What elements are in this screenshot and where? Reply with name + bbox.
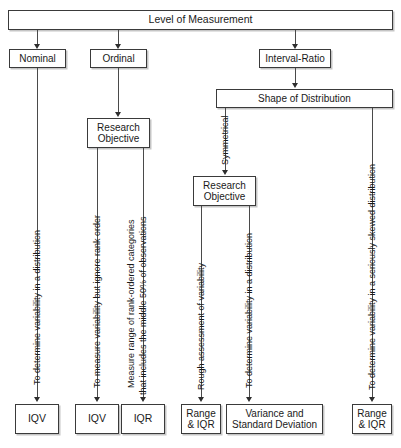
node-label: Shape of Distribution <box>258 93 351 104</box>
connector-ordinal-to-research-objective <box>118 68 119 113</box>
edge-label-ordinal-to-iqr-line1: Measure range of rank-ordered categories <box>127 219 137 388</box>
arrowhead-ordinal-to-research-objective <box>115 112 121 117</box>
outcome-box-iqv-ordinal[interactable]: IQV <box>75 404 119 434</box>
outcome-label: IQV <box>28 413 46 425</box>
outcome-label: Range & IQR <box>186 408 215 430</box>
outcome-label: Range & IQR <box>357 408 386 430</box>
connector-interval-ratio-to-shape <box>295 68 296 84</box>
outcome-box-range-iqr-skewed[interactable]: Range & IQR <box>352 404 392 434</box>
node-label: Research Objective <box>97 122 140 144</box>
node-shape-of-distribution[interactable]: Shape of Distribution <box>216 89 393 108</box>
branch-label-symmetrical: Symmetrical <box>221 115 231 165</box>
node-label: Research Objective <box>203 180 246 202</box>
arrowhead-ordinal-ro-to-iqv <box>94 397 100 402</box>
arrowhead-interval-ro-to-variance <box>246 397 252 402</box>
arrowhead-nominal-to-iqv <box>34 397 40 402</box>
outcome-box-variance-standard-deviation[interactable]: Variance and Standard Deviation <box>226 404 323 434</box>
node-research-objective-interval[interactable]: Research Objective <box>193 176 256 206</box>
outcome-label: Variance and Standard Deviation <box>232 408 317 430</box>
arrowhead-shape-symmetrical <box>222 170 228 175</box>
outcome-box-range-iqr-rough[interactable]: Range & IQR <box>181 404 221 434</box>
edge-label-ordinal-to-iqr-line2: that includes the middle 50% of observat… <box>139 216 149 395</box>
node-label: Nominal <box>19 53 56 64</box>
edge-label-rough-assessment: Rough assessment of variability <box>197 263 207 390</box>
node-nominal[interactable]: Nominal <box>9 49 66 68</box>
node-label: Level of Measurement <box>149 14 253 26</box>
node-label: Interval-Ratio <box>265 53 324 64</box>
flowchart-canvas: Level of Measurement Nominal Ordinal Int… <box>0 0 401 448</box>
edge-label-skewed-to-range-iqr: To determine variability in a seriously … <box>368 164 378 390</box>
node-research-objective-ordinal[interactable]: Research Objective <box>87 118 150 148</box>
outcome-box-iqr[interactable]: IQR <box>121 404 165 434</box>
node-label: Ordinal <box>102 53 134 64</box>
node-interval-ratio[interactable]: Interval-Ratio <box>259 49 331 68</box>
outcome-label: IQR <box>134 413 153 425</box>
arrowhead-interval-ro-to-range-iqr <box>198 397 204 402</box>
edge-label-ordinal-to-iqv: To measure variability but ignore rank o… <box>93 215 103 388</box>
connector-root-to-ordinal <box>118 30 119 45</box>
arrowhead-ordinal-ro-to-iqr <box>140 397 146 402</box>
arrowhead-interval-ratio-to-shape <box>292 83 298 88</box>
connector-root-to-nominal <box>37 30 38 45</box>
edge-label-interval-to-variance: To determine variability in a distributi… <box>245 233 255 388</box>
connector-root-to-interval-ratio <box>295 30 296 45</box>
outcome-label: IQV <box>88 413 106 425</box>
edge-label-nominal-to-iqv: To determine variability in a distributi… <box>33 230 43 385</box>
node-level-of-measurement[interactable]: Level of Measurement <box>8 10 393 30</box>
arrowhead-shape-skewed <box>369 397 375 402</box>
outcome-box-iqv-nominal[interactable]: IQV <box>15 404 59 434</box>
node-ordinal[interactable]: Ordinal <box>90 49 147 68</box>
